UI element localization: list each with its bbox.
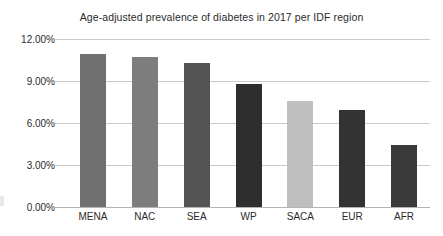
x-axis-labels: MENANACSEAWPSACAEURAFR (67, 211, 430, 231)
y-axis-tick-label: 12.00% (21, 34, 55, 45)
y-tick-mark (55, 81, 67, 82)
x-axis-label-wp: WP (240, 211, 256, 222)
x-axis-label-eur: EUR (342, 211, 363, 222)
edge-artifact (0, 196, 4, 206)
x-axis-label-saca: SACA (287, 211, 314, 222)
bar-chart: Age-adjusted prevalence of diabetes in 2… (0, 0, 443, 236)
bar-saca[interactable] (287, 101, 313, 207)
x-axis-label-nac: NAC (134, 211, 155, 222)
y-tick-mark (55, 165, 67, 166)
x-axis-label-mena: MENA (78, 211, 107, 222)
y-axis-labels: 0.00%3.00%6.00%9.00%12.00% (0, 0, 55, 236)
x-axis-label-sea: SEA (187, 211, 207, 222)
plot-area (67, 39, 430, 207)
bar-sea[interactable] (184, 63, 210, 207)
bar-eur[interactable] (339, 110, 365, 207)
bar-afr[interactable] (391, 145, 417, 207)
bar-wp[interactable] (236, 84, 262, 207)
chart-title: Age-adjusted prevalence of diabetes in 2… (0, 11, 443, 23)
y-tick-mark (55, 39, 67, 40)
y-axis-tick-label: 3.00% (27, 160, 55, 171)
bar-nac[interactable] (132, 57, 158, 207)
x-axis-label-afr: AFR (394, 211, 414, 222)
y-axis-tick-label: 9.00% (27, 76, 55, 87)
y-tick-mark (55, 207, 67, 208)
y-tick-mark (55, 123, 67, 124)
y-axis-tick-label: 6.00% (27, 118, 55, 129)
bars-group (67, 39, 430, 207)
gridline-000 (67, 207, 430, 208)
bar-mena[interactable] (80, 54, 106, 207)
y-axis-tick-label: 0.00% (27, 202, 55, 213)
